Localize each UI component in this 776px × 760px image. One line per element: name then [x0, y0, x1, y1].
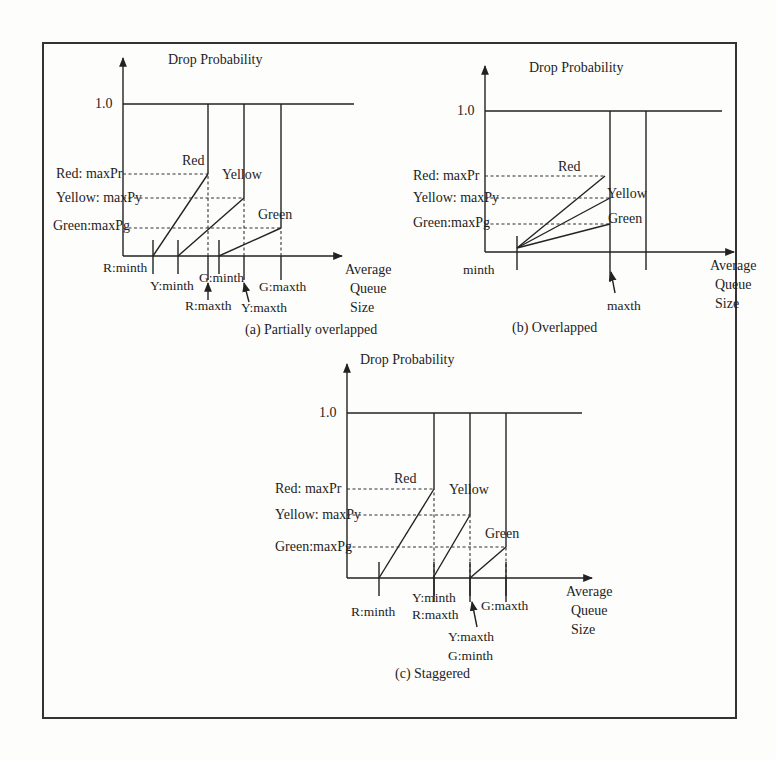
threshold-label: maxth — [607, 298, 641, 313]
ramp — [153, 174, 208, 256]
y-axis-label: Drop Probability — [529, 60, 624, 75]
curve-label: Yellow — [449, 482, 490, 497]
ramp — [219, 228, 281, 256]
curve-green: Green — [485, 211, 642, 248]
threshold-label: Y:minth — [150, 278, 194, 293]
x-axis-label: Queue — [715, 277, 752, 292]
curve-yellow: Yellow — [347, 413, 490, 602]
threshold-label: G:maxth — [259, 279, 306, 294]
ramp — [178, 198, 244, 256]
panel-c: Drop ProbabilityAverageQueueSize1.0Red: … — [275, 352, 612, 682]
threshold-label: G:minth — [199, 270, 244, 285]
maxp-label: Green:maxPg — [53, 218, 130, 233]
maxp-label: Green:maxPg — [275, 539, 352, 554]
ramp — [379, 489, 434, 578]
threshold-label: minth — [463, 262, 495, 277]
x-axis-label: Size — [350, 300, 374, 315]
y-axis-label: Drop Probability — [168, 52, 263, 67]
curve-yellow: Yellow — [123, 104, 263, 280]
one-label: 1.0 — [95, 96, 113, 111]
ramp — [470, 547, 506, 578]
threshold-label: R:maxth — [185, 298, 232, 313]
one-label: 1.0 — [457, 103, 475, 118]
panel-a: Drop ProbabilityAverageQueueSize1.0Red: … — [53, 52, 391, 338]
panel-b: Drop ProbabilityAverageQueueSize1.0Red: … — [413, 60, 756, 336]
maxp-label: Red: maxPr — [275, 481, 342, 496]
threshold-label: G:maxth — [481, 598, 528, 613]
panel-caption: (b) Overlapped — [512, 320, 597, 336]
threshold-label: R:minth — [351, 604, 396, 619]
x-axis-label: Average — [566, 584, 612, 599]
x-axis-label: Average — [345, 262, 391, 277]
x-axis-label: Average — [710, 258, 756, 273]
maxp-label: Green:maxPg — [413, 215, 490, 230]
curve-label: Yellow — [607, 186, 648, 201]
threshold-label: R:maxth — [412, 607, 459, 622]
curve-label: Red — [394, 471, 417, 486]
curve-green: Green — [347, 413, 519, 602]
threshold-label: Y:minth — [412, 590, 456, 605]
maxp-label: Red: maxPr — [56, 166, 123, 181]
x-axis-label: Queue — [350, 281, 387, 296]
curve-label: Red — [182, 153, 205, 168]
curve-label: Red — [558, 159, 581, 174]
red-drop-probability-figure: Drop ProbabilityAverageQueueSize1.0Red: … — [0, 0, 776, 760]
x-axis-label: Queue — [571, 603, 608, 618]
curve-label: Green — [485, 526, 519, 541]
threshold-label: Y:maxth — [448, 629, 494, 644]
x-axis-label: Size — [571, 622, 595, 637]
curve-label: Yellow — [222, 167, 263, 182]
maxp-label: Red: maxPr — [413, 168, 480, 183]
pointer-arrow — [472, 602, 477, 627]
y-axis-label: Drop Probability — [360, 352, 455, 367]
pointer-arrow — [611, 272, 615, 293]
threshold-label: G:minth — [448, 648, 493, 663]
threshold-label: R:minth — [103, 260, 148, 275]
panel-caption: (a) Partially overlapped — [245, 322, 377, 338]
curve-red: Red — [485, 159, 605, 248]
curve-label: Green — [258, 207, 292, 222]
panel-caption: (c) Staggered — [395, 666, 470, 682]
curve-label: Green — [608, 211, 642, 226]
ramp — [517, 198, 610, 248]
threshold-label: Y:maxth — [241, 300, 287, 315]
one-label: 1.0 — [319, 405, 337, 420]
x-axis-label: Size — [715, 296, 739, 311]
